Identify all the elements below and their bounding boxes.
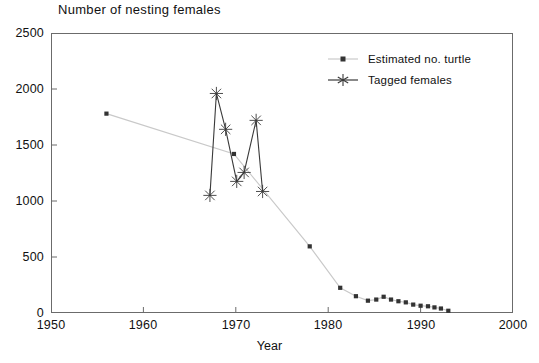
data-point-marker bbox=[210, 87, 222, 99]
data-point-marker bbox=[389, 297, 393, 301]
legend-key-star-icon bbox=[326, 72, 360, 88]
x-tick-1960: 1960 bbox=[113, 318, 173, 332]
chart-figure: Number of nesting females 2500 2000 1500… bbox=[0, 0, 539, 363]
data-point-marker bbox=[426, 304, 430, 308]
y-tick-2500: 2500 bbox=[0, 26, 44, 40]
x-tick-2000: 2000 bbox=[483, 318, 539, 332]
data-point-marker bbox=[238, 166, 250, 178]
data-point-marker bbox=[104, 112, 108, 116]
legend-label-tagged: Tagged females bbox=[360, 74, 452, 86]
data-point-marker bbox=[419, 304, 423, 308]
data-point-marker bbox=[439, 306, 443, 310]
data-point-marker bbox=[232, 152, 236, 156]
y-tick-2000: 2000 bbox=[0, 82, 44, 96]
x-tick-1970: 1970 bbox=[206, 318, 266, 332]
data-point-marker bbox=[411, 303, 415, 307]
data-point-marker bbox=[204, 189, 216, 201]
y-tick-1000: 1000 bbox=[0, 194, 44, 208]
data-point-marker bbox=[446, 309, 450, 313]
y-tick-1500: 1500 bbox=[0, 138, 44, 152]
data-point-marker bbox=[432, 305, 436, 309]
x-tick-1990: 1990 bbox=[391, 318, 451, 332]
x-axis-title: Year bbox=[0, 339, 539, 353]
chart-legend: Estimated no. turtle Tagged females bbox=[326, 48, 516, 90]
data-point-marker bbox=[219, 123, 231, 135]
data-point-marker bbox=[231, 175, 243, 187]
data-point-marker bbox=[366, 299, 370, 303]
y-tick-500: 500 bbox=[0, 250, 44, 264]
x-tick-1980: 1980 bbox=[298, 318, 358, 332]
series-line bbox=[106, 114, 448, 311]
legend-item-tagged: Tagged females bbox=[326, 69, 516, 90]
legend-item-estimated: Estimated no. turtle bbox=[326, 48, 516, 69]
data-point-marker bbox=[256, 185, 268, 197]
data-point-marker bbox=[354, 294, 358, 298]
data-point-marker bbox=[308, 244, 312, 248]
data-point-marker bbox=[250, 114, 262, 126]
data-point-marker bbox=[338, 286, 342, 290]
legend-label-estimated: Estimated no. turtle bbox=[360, 53, 471, 65]
x-tick-1950: 1950 bbox=[21, 318, 81, 332]
data-point-marker bbox=[404, 300, 408, 304]
series-estimated-no-turtle bbox=[104, 112, 450, 313]
legend-key-square-icon bbox=[326, 51, 360, 67]
data-point-marker bbox=[374, 297, 378, 301]
data-point-marker bbox=[396, 299, 400, 303]
data-point-marker bbox=[382, 295, 386, 299]
